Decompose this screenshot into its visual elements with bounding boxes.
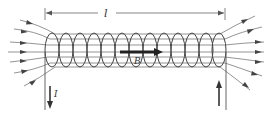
current-label: I: [53, 89, 58, 99]
length-dimension: l: [45, 7, 225, 20]
solenoid-diagram: l: [0, 0, 272, 117]
length-label: l: [104, 7, 108, 20]
field-label: B: [133, 56, 141, 66]
field-arrows-out: [241, 19, 262, 88]
